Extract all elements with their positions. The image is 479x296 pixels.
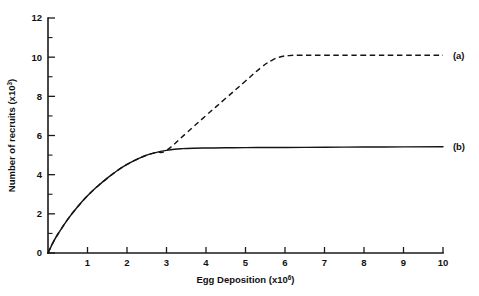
x-ticklabel-7: 7 <box>322 257 327 268</box>
x-ticklabel-9: 9 <box>401 257 406 268</box>
x-ticklabel-1: 1 <box>85 257 91 268</box>
y-axis-major-ticks <box>48 18 55 253</box>
x-ticklabel-4: 4 <box>203 257 209 268</box>
x-axis-major-ticks <box>88 247 444 253</box>
x-ticklabel-6: 6 <box>282 257 287 268</box>
y-axis-tick-labels: 024681012 <box>31 12 42 258</box>
curve-b-solid <box>48 147 443 253</box>
y-ticklabel-2: 2 <box>37 208 42 219</box>
series-inline-labels: (a)(b) <box>453 50 465 152</box>
x-ticklabel-5: 5 <box>243 257 249 268</box>
y-ticklabel-6: 6 <box>37 130 42 141</box>
series-label-b: (b) <box>453 141 465 152</box>
svg-text:Number of recruits (x103): Number of recruits (x103) <box>6 79 17 192</box>
series-label-a: (a) <box>453 50 465 61</box>
curve-a-dashed <box>48 55 443 253</box>
x-ticklabel-10: 10 <box>438 257 449 268</box>
y-axis-title-tail: ) <box>6 79 17 82</box>
y-ticklabel-12: 12 <box>31 12 42 23</box>
y-ticklabel-10: 10 <box>31 52 42 63</box>
x-ticklabel-3: 3 <box>164 257 169 268</box>
stock-recruitment-chart: 024681012 12345678910 (a)(b) Egg Deposit… <box>0 0 479 296</box>
y-axis-title: Number of recruits (x103) <box>6 79 17 192</box>
x-axis-tick-labels: 12345678910 <box>85 257 448 268</box>
x-axis-title: Egg Deposition (x106) <box>196 274 294 285</box>
chart-canvas: 024681012 12345678910 (a)(b) Egg Deposit… <box>0 0 479 296</box>
x-axis-title-main: Egg Deposition (x10 <box>196 274 287 285</box>
y-axis-title-main: Number of recruits (x10 <box>6 86 17 193</box>
y-ticklabel-0: 0 <box>37 247 42 258</box>
y-ticklabel-8: 8 <box>37 91 42 102</box>
x-axis-title-tail: ) <box>291 274 294 285</box>
x-ticklabel-8: 8 <box>361 257 366 268</box>
x-ticklabel-2: 2 <box>124 257 129 268</box>
y-ticklabel-4: 4 <box>37 169 43 180</box>
